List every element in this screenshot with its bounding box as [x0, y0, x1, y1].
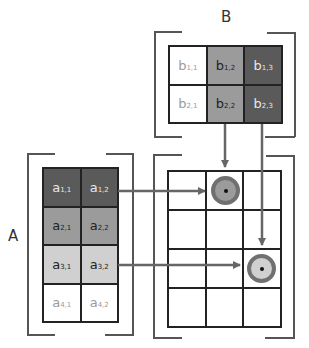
result-marker-3-3 — [247, 254, 276, 283]
marker-center-dot — [260, 267, 264, 271]
result-marker-1-2 — [211, 176, 240, 205]
arrows-layer — [0, 0, 309, 348]
marker-center-dot — [224, 189, 228, 193]
